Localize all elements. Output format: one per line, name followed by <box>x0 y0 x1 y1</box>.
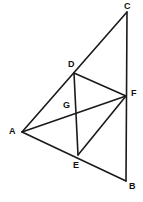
vertex-label-g: G <box>63 101 70 110</box>
vertex-label-f: F <box>131 89 137 98</box>
geometry-figure: A B C D E F G <box>0 0 143 202</box>
vertex-label-d: D <box>68 60 75 69</box>
vertex-label-e: E <box>73 161 79 170</box>
segment-a-b <box>22 132 126 181</box>
vertex-label-a: A <box>9 127 16 136</box>
geometry-canvas <box>0 0 143 202</box>
vertex-label-b: B <box>129 182 136 191</box>
segment-d-f <box>74 73 126 96</box>
segments-group <box>22 12 127 181</box>
vertex-label-c: C <box>124 2 131 11</box>
